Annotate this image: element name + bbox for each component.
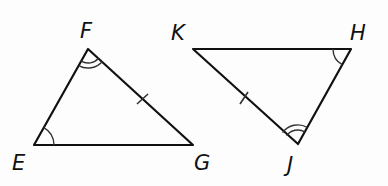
triangle-efg bbox=[34, 49, 193, 145]
angle-h-arc bbox=[333, 49, 342, 65]
congruent-triangles-diagram: F E G K H J bbox=[0, 0, 388, 186]
vertex-label-k: K bbox=[171, 21, 187, 45]
vertex-label-f: F bbox=[80, 19, 93, 43]
vertex-label-h: H bbox=[350, 21, 366, 45]
vertex-label-j: J bbox=[283, 153, 293, 177]
vertex-label-g: G bbox=[194, 151, 210, 175]
triangle-khj-sides bbox=[193, 49, 351, 144]
angle-f-arc-inner bbox=[81, 58, 99, 63]
angle-e-arc bbox=[44, 128, 54, 145]
triangle-khj bbox=[193, 49, 351, 144]
vertex-label-e: E bbox=[12, 151, 26, 175]
triangle-efg-sides bbox=[34, 49, 193, 145]
